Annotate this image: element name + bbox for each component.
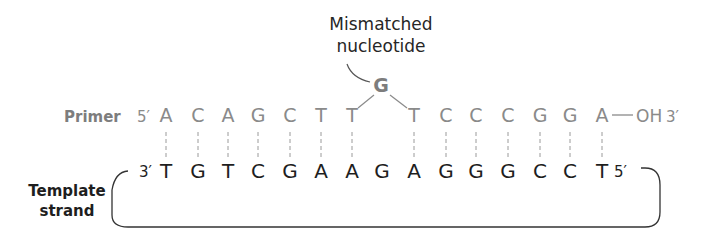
template-label-line1: Template — [28, 182, 105, 200]
primer-5prime: 5′ — [137, 108, 151, 126]
template-base: T — [595, 159, 609, 183]
template-base: A — [407, 159, 421, 183]
template-base: G — [500, 159, 516, 183]
template-base: G — [468, 159, 484, 183]
dna-mismatch-diagram: Mismatched nucleotide G Primer 5′ A C A … — [0, 0, 714, 248]
base-pair-dashes — [166, 132, 602, 160]
template-base: G — [438, 159, 454, 183]
primer-base: C — [501, 104, 514, 126]
template-base: T — [221, 159, 235, 183]
callout-label-line2: nucleotide — [336, 36, 425, 56]
bulge-right-line — [390, 95, 407, 108]
callout-leader-line — [347, 64, 370, 82]
primer-base: C — [439, 104, 452, 126]
primer-base: C — [191, 104, 204, 126]
template-base: T — [159, 159, 173, 183]
primer-base: A — [222, 104, 235, 126]
bulge-left-line — [358, 95, 374, 108]
template-base: C — [533, 159, 547, 183]
primer-base: C — [469, 104, 482, 126]
template-base: G — [190, 159, 206, 183]
primer-base: T — [314, 104, 327, 126]
primer-base: A — [596, 104, 609, 126]
template-base: C — [251, 159, 265, 183]
primer-base: G — [533, 104, 548, 126]
mismatched-base: G — [373, 74, 389, 96]
template-base: A — [314, 159, 328, 183]
template-base: G — [374, 159, 390, 183]
primer-base: A — [160, 104, 173, 126]
primer-3prime: 3′ — [666, 108, 680, 126]
primer-base: T — [345, 104, 358, 126]
primer-oh: OH — [636, 106, 662, 126]
template-bases: T G T C G A A G A G G G C C T — [159, 159, 609, 183]
primer-label: Primer — [64, 108, 121, 126]
template-base: G — [282, 159, 298, 183]
template-label-line2: strand — [39, 202, 94, 220]
template-base: C — [563, 159, 577, 183]
primer-base: T — [407, 104, 420, 126]
template-5prime: 5′ — [614, 163, 628, 181]
primer-base: G — [563, 104, 578, 126]
primer-bases: A C A G C T T T C C C G G A — [160, 104, 609, 126]
primer-base: C — [283, 104, 296, 126]
template-3prime: 3′ — [139, 163, 153, 181]
primer-base: G — [251, 104, 266, 126]
template-base: A — [345, 159, 359, 183]
callout-label-line1: Mismatched — [329, 14, 432, 34]
